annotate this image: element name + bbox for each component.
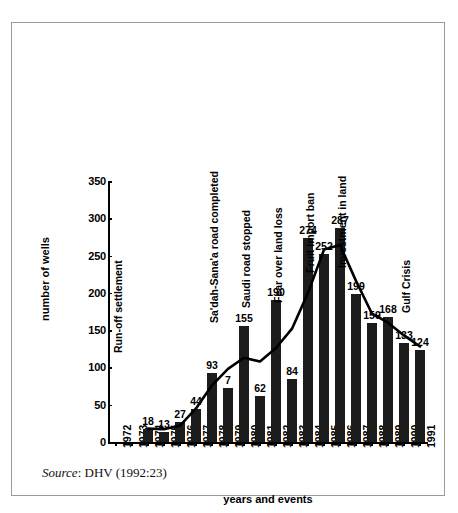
x-tick-label: 1984 — [302, 448, 314, 492]
chart-plot-area: number of wells years and events 0501001… — [12, 23, 446, 497]
bar — [399, 343, 409, 442]
x-tick-mark — [339, 442, 340, 446]
x-tick-label: 1976 — [174, 448, 186, 492]
source-label: Source — [42, 465, 78, 480]
x-tick-mark — [179, 442, 180, 446]
x-tick-mark — [403, 442, 404, 446]
y-tick-label: 150 — [62, 324, 106, 336]
bar — [223, 388, 233, 442]
bar-value-label: 27 — [163, 408, 197, 420]
event-annotation: Fear over land loss — [272, 207, 284, 303]
y-tick-value: 300 — [68, 212, 106, 224]
bar — [367, 323, 377, 442]
bar — [415, 350, 425, 442]
bar-value-label: 199 — [339, 280, 373, 292]
source-value: : DHV (1992:23) — [78, 465, 167, 480]
event-annotation: Sa'dah-Sana'a road completed — [208, 171, 220, 323]
y-tick-label: 300 — [62, 212, 106, 224]
y-tick-value: 50 — [68, 399, 106, 411]
figure-frame: number of wells years and events 0501001… — [11, 22, 445, 496]
x-tick-mark — [243, 442, 244, 446]
x-tick-mark — [195, 442, 196, 446]
x-axis-title: years and events — [108, 493, 428, 505]
y-tick-mark — [108, 405, 112, 407]
x-tick-mark — [291, 442, 292, 446]
y-tick-label: 250 — [62, 250, 106, 262]
y-tick-value: 250 — [68, 250, 106, 262]
x-tick-mark — [419, 442, 420, 446]
event-annotation: Gulf Crisis — [400, 260, 412, 313]
bar-value-label: 155 — [227, 312, 261, 324]
x-tick-mark — [371, 442, 372, 446]
y-tick-value: 200 — [68, 287, 106, 299]
bar — [159, 432, 169, 442]
y-tick-label: 0 — [62, 436, 106, 448]
x-tick-label: 1982 — [270, 448, 282, 492]
y-tick-mark — [108, 442, 112, 444]
y-tick-mark — [108, 256, 112, 258]
event-annotation: Fruit import ban — [304, 193, 316, 274]
x-tick-label: 1987 — [350, 448, 362, 492]
y-tick-mark — [108, 367, 112, 369]
y-tick-value: 100 — [68, 361, 106, 373]
x-tick-label: 1981 — [254, 448, 266, 492]
y-tick-mark — [108, 181, 112, 183]
y-tick-value: 350 — [68, 175, 106, 187]
bar — [319, 254, 329, 442]
x-tick-mark — [307, 442, 308, 446]
x-tick-mark — [323, 442, 324, 446]
x-tick-mark — [147, 442, 148, 446]
x-tick-label: 1989 — [382, 448, 394, 492]
event-annotation: Investment in land — [336, 176, 348, 268]
y-tick-label: 350 — [62, 175, 106, 187]
bar-value-label: 93 — [195, 359, 229, 371]
x-tick-mark — [163, 442, 164, 446]
x-tick-label: 1978 — [206, 448, 218, 492]
source-note: Source: DHV (1992:23) — [42, 465, 167, 481]
event-annotation: Run-off settlement — [112, 260, 124, 353]
y-axis-line — [108, 181, 110, 443]
bar-value-label: 13 — [147, 418, 181, 430]
y-axis-title: number of wells — [39, 219, 51, 339]
x-tick-mark — [227, 442, 228, 446]
x-tick-mark — [259, 442, 260, 446]
x-tick-mark — [275, 442, 276, 446]
bar-value-label: 124 — [403, 336, 437, 348]
x-tick-value: 1991 — [425, 425, 437, 448]
bar — [143, 429, 153, 442]
x-tick-label: 1985 — [318, 448, 330, 492]
y-tick-value: 150 — [68, 324, 106, 336]
x-tick-mark — [387, 442, 388, 446]
bar-value-label: 44 — [179, 395, 213, 407]
x-tick-label: 1990 — [398, 448, 410, 492]
x-tick-label: 1979 — [222, 448, 234, 492]
bar-value-label: 84 — [275, 365, 309, 377]
x-tick-mark — [355, 442, 356, 446]
bar-value-label: 62 — [243, 382, 277, 394]
bar — [287, 379, 297, 442]
x-tick-label: 1991 — [414, 448, 426, 492]
x-tick-label: 1980 — [238, 448, 250, 492]
x-tick-label: 1977 — [190, 448, 202, 492]
y-tick-value: 0 — [68, 436, 106, 448]
x-tick-mark — [211, 442, 212, 446]
x-tick-mark — [115, 442, 116, 446]
bar — [255, 396, 265, 442]
x-tick-label: 1983 — [286, 448, 298, 492]
x-tick-mark — [131, 442, 132, 446]
event-annotation: Saudi road stopped — [240, 210, 252, 308]
y-tick-mark — [108, 218, 112, 220]
y-tick-label: 100 — [62, 361, 106, 373]
x-tick-label: 1986 — [334, 448, 346, 492]
y-tick-label: 200 — [62, 287, 106, 299]
bar-value-label: 7 — [211, 374, 245, 386]
x-tick-label: 1988 — [366, 448, 378, 492]
y-tick-label: 50 — [62, 399, 106, 411]
